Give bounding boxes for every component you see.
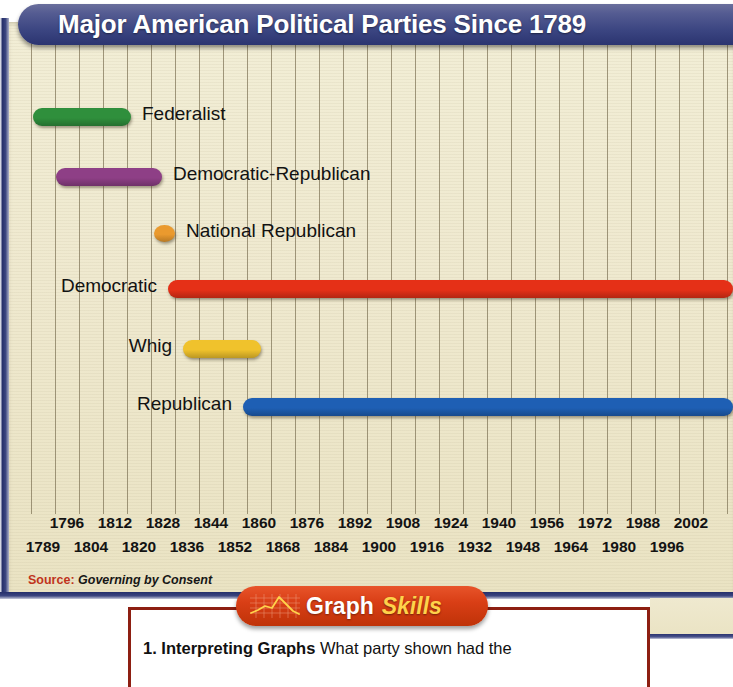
chart-title-bar: Major American Political Parties Since 1…	[18, 4, 733, 45]
party-bar	[243, 398, 733, 416]
year-tick: 1916	[405, 538, 449, 556]
party-bar	[33, 108, 131, 126]
gridline	[511, 22, 512, 514]
gridline	[535, 22, 536, 514]
year-tick: 2002	[669, 514, 713, 532]
year-tick: 1908	[381, 514, 425, 532]
gridline	[391, 22, 392, 514]
year-axis-row-bottom: 1789180418201836185218681884190019161932…	[6, 538, 733, 562]
gridline	[415, 22, 416, 514]
year-tick: 1972	[573, 514, 617, 532]
party-bar	[168, 280, 733, 298]
question-text: What party shown had the	[320, 639, 512, 657]
party-bar	[154, 225, 175, 242]
graph-skills-figure: FederalistDemocratic-RepublicanNational …	[0, 0, 733, 687]
gridline	[247, 22, 248, 514]
gridline	[439, 22, 440, 514]
year-tick: 1900	[357, 538, 401, 556]
year-tick: 1828	[141, 514, 185, 532]
line-graph-icon	[250, 594, 300, 618]
year-tick: 1996	[645, 538, 689, 556]
gridline	[223, 22, 224, 514]
gridline	[295, 22, 296, 514]
gridline	[631, 22, 632, 514]
party-label: Federalist	[142, 103, 225, 125]
year-tick: 1789	[21, 538, 65, 556]
year-tick: 1932	[453, 538, 497, 556]
gridline	[583, 22, 584, 514]
year-tick: 1860	[237, 514, 281, 532]
party-label: Democratic	[61, 275, 157, 297]
gridline	[79, 22, 80, 514]
year-tick: 1884	[309, 538, 353, 556]
year-tick: 1948	[501, 538, 545, 556]
source-line: Source: Governing by Consent	[28, 573, 212, 587]
year-tick: 1892	[333, 514, 377, 532]
gridline	[727, 22, 728, 514]
party-row: Democratic-Republican	[6, 160, 733, 194]
page-title: Major American Political Parties Since 1…	[58, 9, 586, 40]
year-tick: 1812	[93, 514, 137, 532]
panel-right-sliver	[650, 598, 733, 638]
year-tick: 1988	[621, 514, 665, 532]
gridline	[703, 22, 704, 514]
party-row: National Republican	[6, 217, 733, 251]
banner-word-graph: Graph	[306, 593, 374, 620]
year-axis-row-top: 1796181218281844186018761892190819241940…	[6, 514, 733, 538]
party-label: Republican	[137, 393, 232, 415]
year-tick: 1796	[45, 514, 89, 532]
year-tick: 1876	[285, 514, 329, 532]
gridline	[487, 22, 488, 514]
year-tick: 1964	[549, 538, 593, 556]
chart-panel: FederalistDemocratic-RepublicanNational …	[6, 22, 733, 594]
source-label: Source:	[28, 573, 75, 587]
gridline	[271, 22, 272, 514]
gridline	[655, 22, 656, 514]
gridline	[175, 22, 176, 514]
year-tick: 1852	[213, 538, 257, 556]
party-label: Whig	[129, 335, 172, 357]
gridline	[559, 22, 560, 514]
party-label: Democratic-Republican	[173, 163, 370, 185]
gridline	[55, 22, 56, 514]
gridline	[319, 22, 320, 514]
year-tick: 1820	[117, 538, 161, 556]
gridline	[199, 22, 200, 514]
gridline	[607, 22, 608, 514]
gridline	[151, 22, 152, 514]
gridline	[367, 22, 368, 514]
party-row: Republican	[6, 390, 733, 424]
chart-gridlines	[6, 22, 733, 514]
party-bar	[183, 340, 261, 358]
frame-border-left	[0, 18, 9, 598]
year-tick: 1836	[165, 538, 209, 556]
year-tick: 1844	[189, 514, 233, 532]
party-row: Democratic	[6, 272, 733, 306]
year-tick: 1980	[597, 538, 641, 556]
source-value: Governing by Consent	[78, 573, 212, 587]
gridline	[343, 22, 344, 514]
year-tick: 1924	[429, 514, 473, 532]
party-row: Whig	[6, 332, 733, 366]
gridline	[31, 22, 32, 514]
question-heading: Interpreting Graphs	[161, 639, 315, 657]
question-1: 1. Interpreting Graphs What party shown …	[143, 639, 512, 658]
year-tick: 1804	[69, 538, 113, 556]
gridline	[103, 22, 104, 514]
panel-right-sliver-rule	[650, 634, 733, 639]
year-tick: 1868	[261, 538, 305, 556]
party-bar	[56, 168, 162, 186]
gridline	[679, 22, 680, 514]
banner-word-skills: Skills	[382, 593, 442, 620]
year-tick: 1956	[525, 514, 569, 532]
year-axis: 1796181218281844186018761892190819241940…	[6, 514, 733, 572]
year-tick: 1940	[477, 514, 521, 532]
party-row: Federalist	[6, 100, 733, 134]
gridline	[127, 22, 128, 514]
question-number: 1.	[143, 639, 157, 657]
gridline	[463, 22, 464, 514]
graph-skills-banner: Graph Skills	[236, 586, 488, 626]
party-label: National Republican	[186, 220, 356, 242]
